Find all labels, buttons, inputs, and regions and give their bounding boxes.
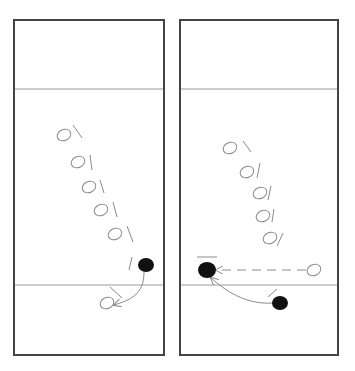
volleyball-rotation-diagram [0,0,355,371]
court-panel-left [14,20,164,355]
player-facing-mark [257,163,260,178]
open-player-marker [98,295,115,311]
filled-player-marker [272,296,288,310]
player-facing-mark [127,226,133,242]
open-player-marker [69,154,86,170]
open-player-marker [80,179,97,195]
movement-arrow [211,278,273,303]
movement-arrow [114,272,144,305]
player-facing-mark [129,257,132,270]
open-player-marker [221,140,238,156]
player-facing-mark [272,209,274,222]
filled-player-marker [138,258,154,272]
player-facing-mark [100,180,104,193]
player-facing-mark [277,233,283,246]
filled-player-marker [198,262,216,278]
open-player-marker [238,164,255,180]
open-player-marker [254,208,271,224]
player-facing-mark [243,141,251,152]
player-facing-mark [268,186,271,200]
player-facing-mark [113,202,117,217]
open-player-marker [55,127,72,143]
open-player-marker [251,185,268,201]
open-player-marker [106,226,123,242]
player-facing-mark [268,289,277,297]
court-panel-right [180,20,338,355]
player-facing-mark [73,125,82,138]
player-facing-mark [90,155,92,170]
open-player-marker [261,230,278,246]
open-player-marker [92,202,109,218]
player-facing-mark [110,287,122,298]
open-player-marker [305,262,322,278]
